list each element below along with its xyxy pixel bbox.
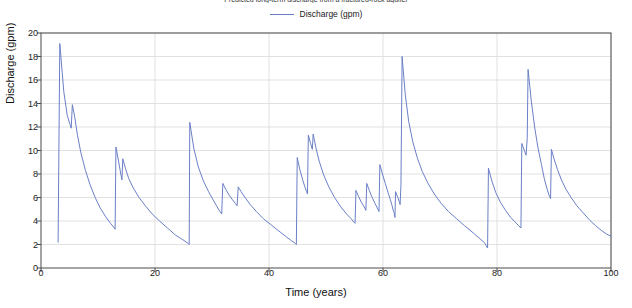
chart-container: Predicted long-term discharge from a fra…: [0, 0, 632, 308]
y-tick-label: 20: [22, 28, 38, 38]
plot-area: [0, 0, 632, 308]
series-line-0: [58, 44, 611, 248]
x-tick-label: 20: [143, 268, 167, 278]
y-tick-label: 4: [22, 216, 38, 226]
y-tick-label: 18: [22, 52, 38, 62]
x-axis-label: Time (years): [0, 286, 632, 298]
y-tick-label: 12: [22, 122, 38, 132]
x-axis-ticks: 020406080100: [0, 268, 632, 282]
x-tick-label: 60: [371, 268, 395, 278]
y-tick-label: 6: [22, 193, 38, 203]
y-axis-ticks: 02468101214161820: [22, 0, 38, 308]
y-tick-label: 8: [22, 169, 38, 179]
y-tick-label: 14: [22, 99, 38, 109]
x-tick-label: 0: [29, 268, 53, 278]
y-tick-label: 10: [22, 146, 38, 156]
x-tick-label: 40: [257, 268, 281, 278]
x-tick-label: 80: [485, 268, 509, 278]
y-tick-label: 16: [22, 75, 38, 85]
chart-svg: [0, 0, 632, 308]
y-tick-label: 2: [22, 240, 38, 250]
y-axis-label: Discharge (gpm): [4, 23, 16, 104]
x-tick-label: 100: [599, 268, 623, 278]
